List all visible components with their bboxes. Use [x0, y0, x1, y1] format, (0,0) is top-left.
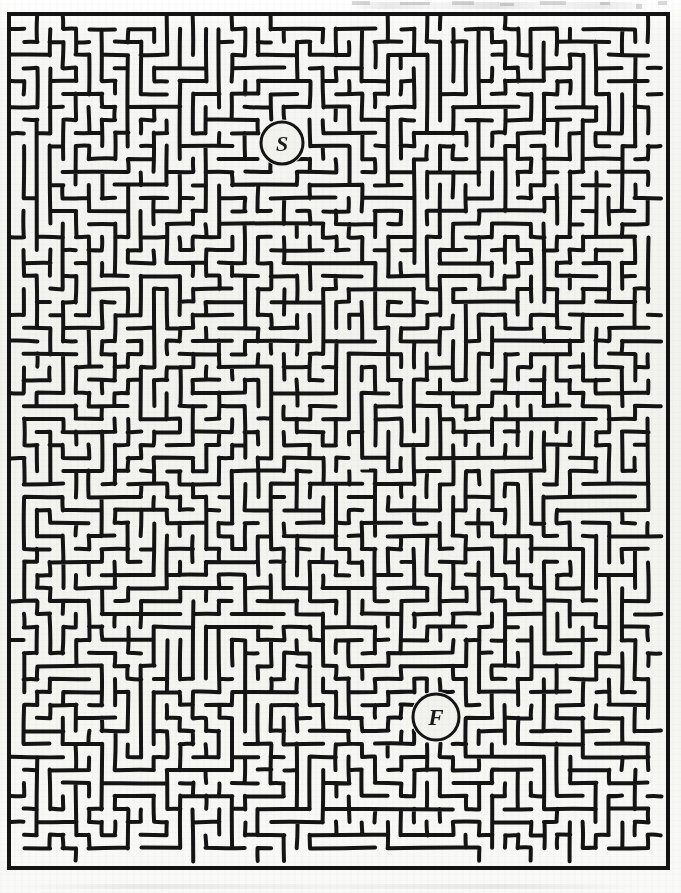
maze-walls-group [11, 16, 662, 862]
start-marker-label: S [276, 131, 288, 156]
maze-wall-path [11, 16, 662, 862]
maze-canvas[interactable]: SF [0, 0, 681, 893]
finish-marker[interactable]: F [411, 692, 462, 743]
center-cross-vertical [353, 453, 360, 479]
finish-marker-label: F [427, 705, 443, 730]
maze-page: SF [0, 0, 681, 893]
start-marker[interactable]: S [259, 120, 306, 167]
